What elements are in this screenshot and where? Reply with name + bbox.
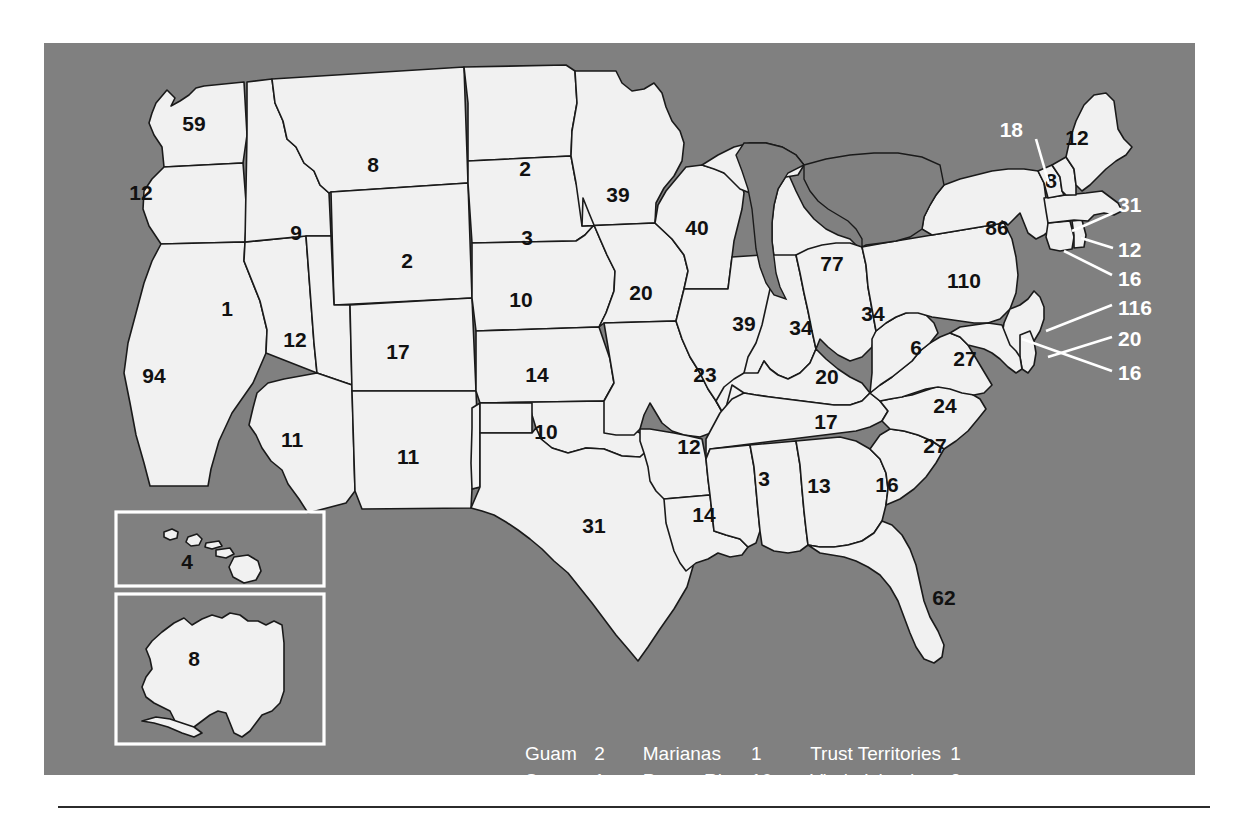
state-label-kentucky: 20 xyxy=(815,365,838,388)
state-label-virginia: 27 xyxy=(953,347,976,370)
state-label-south-carolina: 27 xyxy=(923,434,946,457)
state-label-indiana: 34 xyxy=(789,316,813,339)
hawaii-islands xyxy=(164,529,261,583)
hawaii-island-kauai xyxy=(164,529,178,540)
state-label-nevada: 1 xyxy=(221,297,233,320)
state-label-new-mexico: 11 xyxy=(397,445,420,468)
state-shape-oklahoma-panhandle xyxy=(480,403,532,433)
state-shape-northdakota xyxy=(464,65,577,161)
state-label-minnesota: 39 xyxy=(606,183,629,206)
territory-value: 1 xyxy=(950,743,999,770)
territory-value: 2 xyxy=(950,770,999,797)
state-shapes xyxy=(124,65,1132,663)
state-label-nebraska: 10 xyxy=(509,288,532,311)
state-label-washington: 59 xyxy=(182,112,205,135)
hawaii-island-oahu xyxy=(186,534,202,546)
state-label-georgia: 16 xyxy=(875,473,898,496)
state-label-illinois: 39 xyxy=(732,312,755,335)
state-label-oklahoma: 10 xyxy=(534,420,557,443)
state-label-arkansas: 12 xyxy=(677,435,700,458)
state-label-idaho: 9 xyxy=(290,221,302,244)
figure-page: 5912941982121117112310141031392023121440… xyxy=(0,0,1234,827)
state-label-new-york: 86 xyxy=(985,216,1008,239)
territory-name: Marianas xyxy=(643,743,751,770)
state-label-vermont: 18 xyxy=(1000,118,1024,141)
territory-row: Samoa1Puerto Rico10Virgin Islands2 xyxy=(525,770,999,797)
hawaii-island-maui xyxy=(216,548,234,558)
state-label-mississippi: 3 xyxy=(758,467,770,490)
state-label-iowa: 20 xyxy=(629,281,652,304)
alaska-shape-group xyxy=(142,613,284,737)
territory-value: 2 xyxy=(594,743,643,770)
territory-name: Virgin Islands xyxy=(810,770,950,797)
territories-legend: Guam2Marianas1Trust Territories1Samoa1Pu… xyxy=(525,743,1125,797)
state-label-north-carolina: 24 xyxy=(933,394,957,417)
leader-line-delaware xyxy=(1048,337,1112,357)
inset-label-hawaii: 4 xyxy=(181,550,193,573)
state-label-north-dakota: 2 xyxy=(519,157,531,180)
state-label-connecticut: 16 xyxy=(1118,267,1141,290)
state-label-arizona: 11 xyxy=(281,428,304,451)
map-panel: 5912941982121117112310141031392023121440… xyxy=(44,43,1195,775)
inset-label-alaska: 8 xyxy=(188,647,200,670)
territory-name: Trust Territories xyxy=(810,743,950,770)
territory-name: Puerto Rico xyxy=(643,770,751,797)
leader-line-new-jersey xyxy=(1046,305,1112,331)
state-label-texas: 31 xyxy=(582,514,606,537)
territory-value: 1 xyxy=(751,743,810,770)
territories-table: Guam2Marianas1Trust Territories1Samoa1Pu… xyxy=(525,743,999,797)
territory-value: 10 xyxy=(751,770,810,797)
territory-value: 1 xyxy=(594,770,643,797)
state-shape-colorado xyxy=(350,298,476,391)
state-shape-mississippi xyxy=(706,445,760,547)
state-label-missouri: 23 xyxy=(693,363,716,386)
state-label-maryland: 16 xyxy=(1118,361,1141,384)
state-shape-rhodeisland xyxy=(1072,220,1086,248)
hawaii-island-big xyxy=(229,555,261,583)
state-label-kansas: 14 xyxy=(525,363,549,386)
hawaii-island-molokai xyxy=(205,541,222,549)
state-shape-wyoming xyxy=(331,183,472,305)
state-label-massachusetts: 31 xyxy=(1118,193,1142,216)
us-map-graphic: 5912941982121117112310141031392023121440… xyxy=(44,43,1195,775)
state-label-louisiana: 14 xyxy=(692,503,716,526)
state-label-west-virginia: 6 xyxy=(910,336,922,359)
state-label-utah: 12 xyxy=(283,328,306,351)
territory-row: Guam2Marianas1Trust Territories1 xyxy=(525,743,999,770)
leader-line-connecticut xyxy=(1064,251,1112,275)
state-label-delaware: 20 xyxy=(1118,327,1141,350)
territory-name: Guam xyxy=(525,743,594,770)
state-label-tennessee: 17 xyxy=(814,410,837,433)
state-label-ohio: 34 xyxy=(861,302,885,325)
state-label-south-dakota: 3 xyxy=(521,226,533,249)
bottom-rule xyxy=(58,806,1210,808)
state-label-michigan: 77 xyxy=(820,252,843,275)
leader-line-rhode-island xyxy=(1081,238,1113,248)
state-shape-connecticut xyxy=(1046,221,1074,251)
state-label-pennsylvania: 110 xyxy=(947,269,981,292)
state-shape-oregon xyxy=(143,163,247,244)
state-label-colorado: 17 xyxy=(386,340,409,363)
state-label-florida: 62 xyxy=(932,586,955,609)
state-label-alabama: 13 xyxy=(807,474,830,497)
state-label-new-jersey: 116 xyxy=(1118,296,1152,319)
state-label-oregon: 12 xyxy=(129,181,152,204)
state-label-maine: 12 xyxy=(1065,126,1088,149)
state-label-wisconsin: 40 xyxy=(685,216,708,239)
state-label-california: 94 xyxy=(142,364,166,387)
state-label-montana: 8 xyxy=(367,153,379,176)
state-label-wyoming: 2 xyxy=(401,249,413,272)
state-label-rhode-island: 12 xyxy=(1118,238,1141,261)
territory-name: Samoa xyxy=(525,770,594,797)
